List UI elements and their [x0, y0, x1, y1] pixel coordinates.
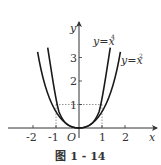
- x-axis-label: x: [149, 131, 156, 144]
- x-tick-label: -2: [26, 131, 37, 144]
- y-axis-label: y: [69, 22, 77, 35]
- x-tick-label: 2: [122, 131, 129, 144]
- svg-text:2: 2: [139, 52, 143, 59]
- y-tick-label: 1: [70, 99, 77, 112]
- function-graph: -2 -1 1 2 O x 1 2 3 y y=x 4 y=x 2: [0, 0, 161, 165]
- y-tick-label: 3: [70, 52, 77, 65]
- origin-label: O: [67, 131, 76, 144]
- figure-caption: 图 1 - 14: [0, 147, 161, 163]
- label-y-equals-x-fourth: y=x 4: [92, 33, 115, 48]
- x-tick-label: -1: [48, 131, 59, 144]
- svg-text:4: 4: [111, 33, 115, 40]
- y-tick-label: 2: [70, 75, 77, 88]
- label-y-equals-x-squared: y=x 2: [120, 52, 143, 67]
- x-tick-label: 1: [99, 131, 106, 144]
